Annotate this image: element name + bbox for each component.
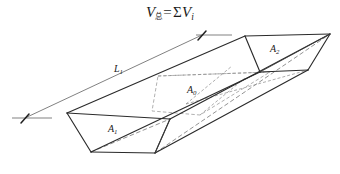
figure-root: V总=ΣVi — [0, 0, 340, 174]
prismoid-diagram: A1 A0 A2 L1 — [0, 0, 340, 174]
label-area-a0-subscript: 0 — [193, 89, 197, 96]
dimension-arrow-tick-left-icon — [21, 114, 29, 123]
label-area-a2-subscript: 2 — [276, 48, 280, 55]
label-area-a1-subscript: 1 — [114, 128, 117, 135]
label-length-l1-subscript: 1 — [120, 68, 123, 75]
label-length-l1: L1 — [113, 63, 123, 75]
dimension-arrow-tick-right-icon — [198, 31, 206, 40]
